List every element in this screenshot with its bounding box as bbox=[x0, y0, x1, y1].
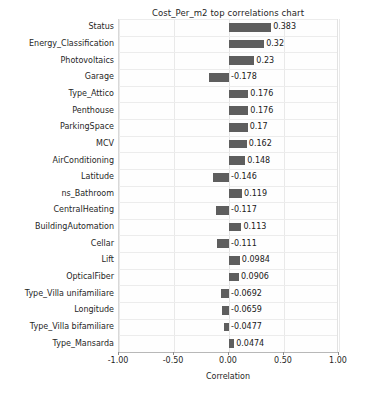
bar-value-label: 0.23 bbox=[256, 57, 274, 65]
bar-value-label: -0.117 bbox=[231, 206, 257, 214]
x-axis-tick-label: -0.50 bbox=[163, 357, 184, 365]
plot-area: 0.3830.320.23-0.1780.1760.1760.170.1620.… bbox=[118, 19, 338, 352]
gridline-horizontal bbox=[119, 252, 337, 253]
bar-value-label: 0.176 bbox=[250, 90, 273, 98]
y-axis-tick-label: Status bbox=[6, 23, 118, 31]
gridline-horizontal bbox=[119, 119, 337, 120]
y-axis-category-labels: StatusEnergy_ClassificationPhotovoltaics… bbox=[0, 19, 118, 352]
correlation-bar-chart: Cost_Per_m2 top correlations chart Statu… bbox=[0, 0, 376, 398]
bar bbox=[229, 223, 241, 232]
bar-value-label: 0.0474 bbox=[236, 340, 264, 348]
bar-value-label: 0.148 bbox=[247, 157, 270, 165]
y-axis-tick-label: CentralHeating bbox=[6, 206, 118, 214]
bar bbox=[229, 106, 248, 115]
gridline-horizontal bbox=[119, 186, 337, 187]
x-axis-tick-label: 0.50 bbox=[274, 357, 292, 365]
gridline-horizontal bbox=[119, 52, 337, 53]
y-axis-tick-label: Latitude bbox=[6, 173, 118, 181]
gridline-horizontal bbox=[119, 69, 337, 70]
x-axis-title: Correlation bbox=[118, 372, 338, 381]
bar bbox=[221, 289, 229, 298]
bar-value-label: -0.111 bbox=[231, 240, 257, 248]
bar-value-label: 0.113 bbox=[243, 223, 266, 231]
bar-value-label: 0.17 bbox=[250, 123, 268, 131]
y-axis-tick-label: OpticalFiber bbox=[6, 273, 118, 281]
y-axis-tick-label: Type_Mansarda bbox=[6, 340, 118, 348]
y-axis-tick-label: Type_Attico bbox=[6, 90, 118, 98]
bar bbox=[229, 156, 245, 165]
gridline-horizontal bbox=[119, 335, 337, 336]
bar-value-label: 0.162 bbox=[249, 140, 272, 148]
bar bbox=[224, 323, 229, 332]
bar-value-label: 0.176 bbox=[250, 107, 273, 115]
bar bbox=[229, 23, 271, 32]
y-axis-tick-label: ParkingSpace bbox=[6, 123, 118, 131]
y-axis-tick-label: Cellar bbox=[6, 240, 118, 248]
bar bbox=[229, 56, 254, 65]
x-axis-tick-mark bbox=[118, 352, 119, 355]
bar bbox=[229, 339, 234, 348]
bar-value-label: -0.146 bbox=[231, 173, 257, 181]
y-axis-tick-label: Garage bbox=[6, 73, 118, 81]
bar-value-label: 0.0906 bbox=[241, 273, 269, 281]
bar-value-label: -0.0659 bbox=[231, 306, 262, 314]
x-axis-tick-label: 0.00 bbox=[219, 357, 237, 365]
bar bbox=[229, 256, 240, 265]
y-axis-tick-label: Longitude bbox=[6, 306, 118, 314]
gridline-horizontal bbox=[119, 319, 337, 320]
bar bbox=[229, 140, 247, 149]
bar bbox=[216, 206, 229, 215]
gridline-horizontal bbox=[119, 136, 337, 137]
y-axis-tick-label: Energy_Classification bbox=[6, 40, 118, 48]
bar-value-label: -0.178 bbox=[231, 73, 257, 81]
gridline-horizontal bbox=[119, 235, 337, 236]
y-axis-tick-label: Photovoltaics bbox=[6, 57, 118, 65]
bar-value-label: 0.383 bbox=[273, 23, 296, 31]
gridline-horizontal bbox=[119, 19, 337, 20]
gridline-horizontal bbox=[119, 169, 337, 170]
bar bbox=[222, 306, 229, 315]
bar bbox=[217, 239, 229, 248]
gridline-horizontal bbox=[119, 269, 337, 270]
bar bbox=[229, 273, 239, 282]
y-axis-tick-label: ns_Bathroom bbox=[6, 190, 118, 198]
y-axis-tick-label: BuildingAutomation bbox=[6, 223, 118, 231]
gridline-horizontal bbox=[119, 285, 337, 286]
bar bbox=[213, 173, 229, 182]
gridline-horizontal bbox=[119, 36, 337, 37]
x-axis-tick-label: 1.00 bbox=[329, 357, 347, 365]
y-axis-tick-label: AirConditioning bbox=[6, 157, 118, 165]
bar-value-label: 0.32 bbox=[266, 40, 284, 48]
x-axis-tick-mark bbox=[283, 352, 284, 355]
bar-value-label: 0.119 bbox=[244, 190, 267, 198]
bar-value-label: -0.0692 bbox=[231, 290, 262, 298]
gridline-horizontal bbox=[119, 302, 337, 303]
y-axis-tick-label: Type_Villa bifamiliare bbox=[6, 323, 118, 331]
bar bbox=[229, 40, 264, 49]
bar bbox=[229, 90, 248, 99]
gridline-horizontal bbox=[119, 86, 337, 87]
bar bbox=[229, 123, 248, 132]
y-axis-tick-label: Type_Villa unifamiliare bbox=[6, 290, 118, 298]
x-axis-tick-label: -1.00 bbox=[108, 357, 129, 365]
bar bbox=[209, 73, 229, 82]
bar-value-label: 0.0984 bbox=[242, 256, 270, 264]
gridline-vertical bbox=[339, 19, 340, 352]
y-axis-tick-label: Lift bbox=[6, 256, 118, 264]
gridline-horizontal bbox=[119, 102, 337, 103]
chart-title: Cost_Per_m2 top correlations chart bbox=[118, 8, 338, 18]
x-axis-tick-mark bbox=[228, 352, 229, 355]
gridline-horizontal bbox=[119, 219, 337, 220]
gridline-horizontal bbox=[119, 202, 337, 203]
x-axis-tick-mark bbox=[338, 352, 339, 355]
y-axis-tick-label: Penthouse bbox=[6, 107, 118, 115]
gridline-horizontal bbox=[119, 152, 337, 153]
y-axis-tick-label: MCV bbox=[6, 140, 118, 148]
bar-value-label: -0.0477 bbox=[231, 323, 262, 331]
x-axis-tick-mark bbox=[173, 352, 174, 355]
bar bbox=[229, 189, 242, 198]
